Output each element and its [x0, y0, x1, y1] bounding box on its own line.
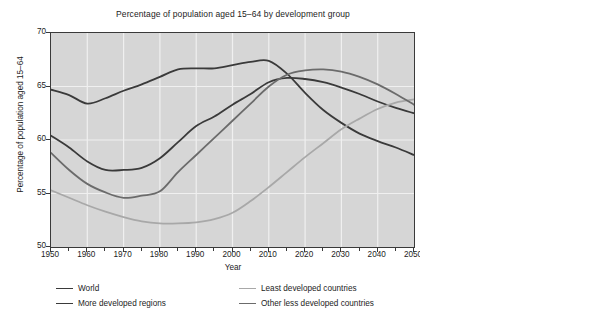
x-tick-mark [359, 248, 360, 251]
x-tick-mark [123, 248, 124, 252]
x-tick-label: 1980 [139, 251, 179, 259]
x-tick-mark [159, 248, 160, 252]
x-tick-mark [340, 248, 341, 252]
y-tick-mark [46, 193, 50, 194]
plot-area [50, 32, 415, 248]
x-tick-mark [413, 248, 414, 252]
legend-swatch [56, 288, 73, 289]
x-tick-mark [50, 248, 51, 252]
x-tick-label: 2040 [357, 251, 397, 259]
legend-swatch [239, 303, 256, 304]
x-tick-mark [268, 248, 269, 252]
legend-label: More developed regions [78, 299, 166, 308]
x-tick-label: 2000 [212, 251, 252, 259]
y-tick-mark [46, 139, 50, 140]
caption-panel: Figure 13.4 A demographic revolution: ch… [420, 0, 611, 328]
legend-label: Other less developed countries [261, 299, 374, 308]
x-tick-label: 2030 [320, 251, 360, 259]
x-tick-mark [232, 248, 233, 252]
x-tick-mark [213, 248, 214, 251]
y-tick-mark [46, 32, 50, 33]
y-tick-label: 50 [24, 242, 46, 250]
legend-item[interactable]: Least developed countries [239, 284, 357, 293]
y-tick-label: 70 [24, 28, 46, 36]
y-tick-mark [46, 246, 50, 247]
x-tick-label: 1990 [175, 251, 215, 259]
x-tick-mark [286, 248, 287, 251]
x-tick-mark [250, 248, 251, 251]
x-tick-mark [377, 248, 378, 252]
legend-label: Least developed countries [261, 284, 357, 293]
x-tick-mark [68, 248, 69, 251]
x-tick-mark [395, 248, 396, 251]
y-tick-mark [46, 86, 50, 87]
x-tick-label: 1950 [30, 251, 70, 259]
legend-swatch [56, 303, 73, 304]
x-tick-mark [141, 248, 142, 251]
y-tick-label: 60 [24, 135, 46, 143]
x-tick-label: 1970 [103, 251, 143, 259]
figure-container: Percentage of population aged 15–64 by d… [0, 0, 611, 328]
x-tick-label: 1960 [66, 251, 106, 259]
x-tick-mark [322, 248, 323, 251]
x-axis-label: Year [50, 263, 416, 272]
legend-item[interactable]: World [56, 284, 99, 293]
x-tick-mark [86, 248, 87, 252]
x-tick-mark [104, 248, 105, 251]
chart-legend: WorldMore developed regionsLeast develop… [56, 284, 416, 316]
plot-svg [51, 33, 414, 247]
x-tick-label: 2010 [248, 251, 288, 259]
x-tick-mark [304, 248, 305, 252]
legend-item[interactable]: More developed regions [56, 299, 166, 308]
x-tick-label: 2020 [284, 251, 324, 259]
y-tick-labels: 5055606570 [22, 0, 46, 328]
chart-block: Percentage of population aged 15–64 by d… [0, 0, 420, 328]
legend-item[interactable]: Other less developed countries [239, 299, 374, 308]
x-tick-mark [177, 248, 178, 251]
x-tick-mark [195, 248, 196, 252]
legend-swatch [239, 288, 256, 289]
y-tick-label: 65 [24, 82, 46, 90]
legend-label: World [78, 284, 99, 293]
y-tick-label: 55 [24, 189, 46, 197]
chart-title: Percentage of population aged 15–64 by d… [50, 9, 416, 19]
